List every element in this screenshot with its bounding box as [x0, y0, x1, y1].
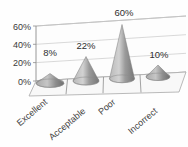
category-label-incorrect: Incorrect: [126, 106, 160, 136]
category-label-poor: Poor: [96, 97, 117, 117]
cone-chart-figure: 60% 40% 20% 0%: [0, 0, 188, 147]
y-tick-label-60: 60%: [13, 22, 31, 32]
y-tick-label-0: 0%: [18, 77, 31, 87]
category-label-excellent: Excellent: [15, 97, 50, 128]
value-axis: [33, 26, 36, 81]
chart-canvas: 60% 40% 20% 0%: [0, 0, 188, 147]
y-tick-label-20: 20%: [13, 58, 31, 68]
x-axis-category-labels: Excellent Acceptable Poor Incorrect: [15, 97, 160, 143]
category-label-acceptable: Acceptable: [47, 106, 88, 142]
y-tick-label-40: 40%: [13, 40, 31, 50]
data-label-acceptable: 22%: [76, 40, 96, 51]
data-label-excellent: 8%: [43, 47, 57, 58]
data-label-incorrect: 10%: [149, 49, 169, 60]
data-label-poor: 60%: [114, 7, 134, 18]
y-axis-tick-labels: 60% 40% 20% 0%: [13, 22, 31, 87]
